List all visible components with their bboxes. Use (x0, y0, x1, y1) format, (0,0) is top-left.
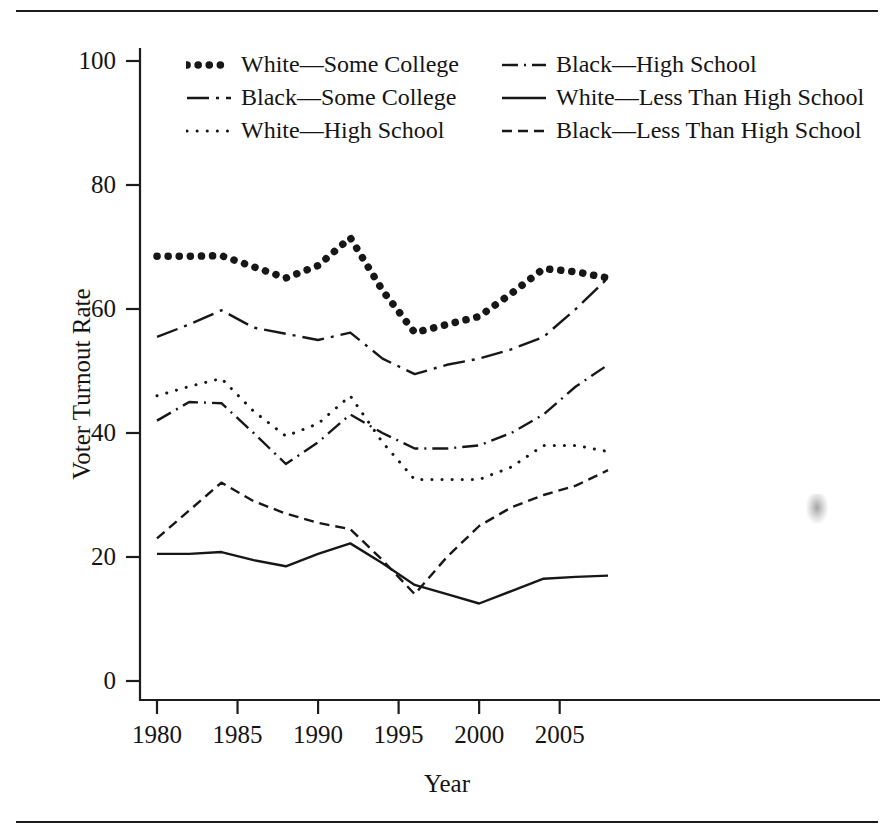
x-tick-label: 1995 (354, 722, 444, 747)
series-line (157, 365, 608, 464)
x-tick-label: 2005 (515, 722, 605, 747)
y-tick-label: 100 (36, 48, 116, 73)
line-chart-canvas (0, 0, 894, 836)
series-line (157, 543, 608, 603)
x-tick-label: 1985 (193, 722, 283, 747)
y-axis-title: Voter Turnout Rate (68, 254, 96, 514)
y-tick-label: 80 (36, 172, 116, 197)
series-line (157, 378, 608, 479)
y-tick-label: 0 (36, 668, 116, 693)
x-tick-label: 1990 (273, 722, 363, 747)
series-line (157, 470, 608, 594)
x-tick-label: 2000 (434, 722, 524, 747)
series-line (157, 278, 608, 374)
y-tick-label: 20 (36, 544, 116, 569)
x-tick-label: 1980 (112, 722, 202, 747)
x-axis-title: Year (347, 770, 547, 798)
figure-container: White—Some CollegeBlack—High SchoolBlack… (0, 0, 894, 836)
plot-area: 100806040200 198019851990199520002005 Vo… (0, 0, 894, 836)
series-line (157, 238, 608, 333)
